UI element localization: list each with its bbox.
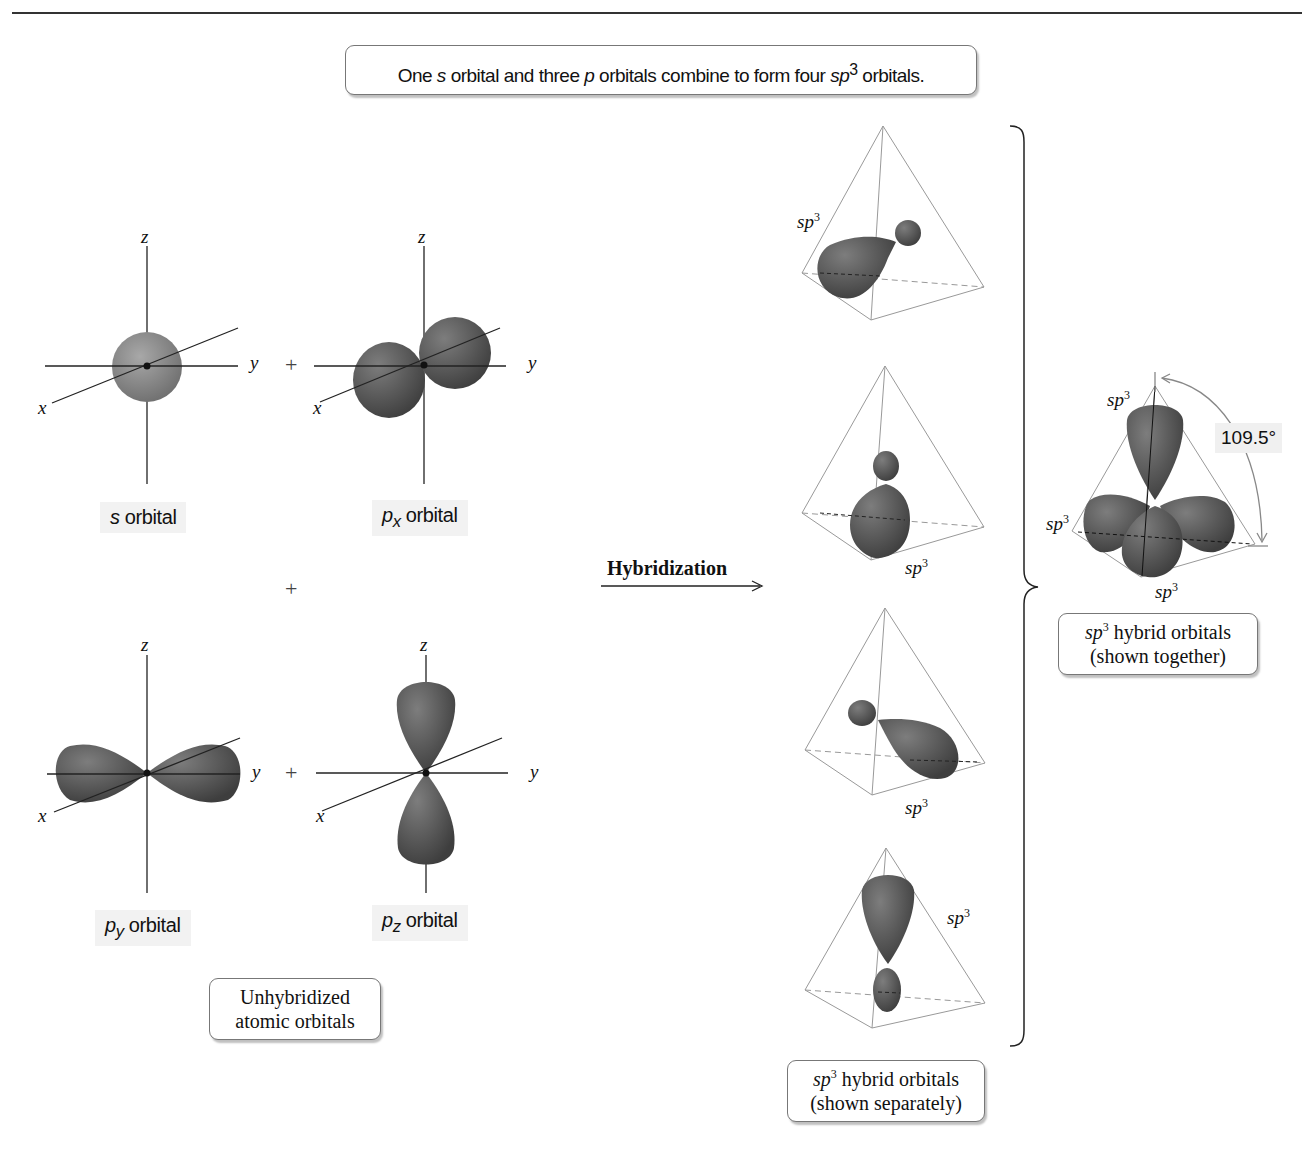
sp3-sup: 3: [814, 210, 820, 224]
caption-line: atomic orbitals: [210, 1009, 380, 1033]
z-axis-label: z: [420, 634, 427, 656]
orbital-suffix: orbital: [120, 506, 177, 528]
s-orbital-label: s orbital: [100, 502, 186, 533]
sp3-base: sp: [947, 907, 964, 928]
sp3-base: sp: [905, 557, 922, 578]
px-orbital-figure: [314, 246, 506, 484]
sp3-sup: 3: [1063, 512, 1069, 526]
sp3-sup: 3: [922, 556, 928, 570]
orbital-subscript: y: [116, 922, 124, 941]
unhybridized-caption: Unhybridized atomic orbitals: [209, 978, 381, 1040]
tetrahedron-3: [805, 608, 985, 795]
separate-caption: sp3 hybrid orbitals (shown separately): [787, 1060, 985, 1122]
caption-text: hybrid orbitals: [1109, 621, 1231, 643]
hybridization-arrow: [601, 581, 762, 591]
sp3-sup: 3: [1172, 580, 1178, 594]
sp3-base: sp: [1155, 581, 1172, 602]
orbital-suffix: orbital: [124, 914, 181, 936]
sp3-label: sp3: [1046, 512, 1069, 535]
sp3-base: sp: [905, 797, 922, 818]
sp3-label: sp3: [1107, 388, 1130, 411]
sp3-base: sp: [1085, 621, 1103, 643]
orbital-symbol: p: [382, 909, 393, 931]
sp3-combined-lobes: [1078, 386, 1252, 577]
orbital-suffix: orbital: [401, 909, 458, 931]
plus-sign: +: [285, 760, 297, 786]
together-caption: sp3 hybrid orbitals (shown together): [1058, 613, 1258, 675]
y-axis-label: y: [530, 761, 538, 783]
caption-line: sp3 hybrid orbitals: [788, 1067, 984, 1091]
sp3-label: sp3: [905, 556, 928, 579]
y-axis-label: y: [528, 352, 536, 374]
caption-line: Unhybridized: [210, 985, 380, 1009]
sp3-label: sp3: [947, 906, 970, 929]
orbital-diagrams: [0, 0, 1313, 1162]
orbital-subscript: z: [393, 917, 401, 936]
sp3-base: sp: [797, 211, 814, 232]
sp3-base: sp: [1046, 513, 1063, 534]
orbital-subscript: x: [393, 512, 401, 531]
plus-sign: +: [285, 576, 297, 602]
py-orbital-label: py orbital: [95, 910, 191, 946]
y-axis-label: y: [252, 761, 260, 783]
sp3-sup: 3: [1124, 388, 1130, 402]
caption-line: (shown separately): [788, 1091, 984, 1115]
s-orbital-figure: [45, 246, 238, 484]
sp3-lobe-2: [820, 451, 910, 558]
orbital-suffix: orbital: [401, 504, 458, 526]
orbital-symbol: s: [110, 506, 120, 528]
z-axis-label: z: [418, 226, 425, 248]
sp3-label: sp3: [905, 796, 928, 819]
x-axis-label: x: [316, 805, 324, 827]
sp3-sup: 3: [964, 906, 970, 920]
brace: [1010, 126, 1038, 1046]
pz-orbital-figure: [316, 655, 508, 893]
px-orbital-label: px orbital: [372, 500, 468, 536]
sp3-base: sp: [1107, 389, 1124, 410]
sp3-lobe-3: [848, 700, 980, 779]
caption-line: sp3 hybrid orbitals: [1059, 620, 1257, 644]
hybridization-label: Hybridization: [607, 557, 727, 580]
z-axis-label: z: [141, 634, 148, 656]
py-orbital-figure: [47, 655, 240, 893]
x-axis-label: x: [313, 397, 321, 419]
sp3-label: sp3: [797, 210, 820, 233]
caption-text: hybrid orbitals: [837, 1068, 959, 1090]
x-axis-label: x: [38, 397, 46, 419]
sp3-sup: 3: [922, 796, 928, 810]
orbital-symbol: p: [382, 504, 393, 526]
sp3-label: sp3: [1155, 580, 1178, 603]
orbital-symbol: p: [105, 914, 116, 936]
sp3-lobe-4: [862, 875, 914, 1012]
bond-angle-label: 109.5°: [1215, 423, 1282, 453]
z-axis-label: z: [141, 226, 148, 248]
sp3-base: sp: [813, 1068, 831, 1090]
y-axis-label: y: [250, 352, 258, 374]
caption-line: (shown together): [1059, 644, 1257, 668]
x-axis-label: x: [38, 805, 46, 827]
plus-sign: +: [285, 352, 297, 378]
pz-orbital-label: pz orbital: [372, 905, 468, 941]
sp3-lobe-1: [817, 220, 921, 298]
